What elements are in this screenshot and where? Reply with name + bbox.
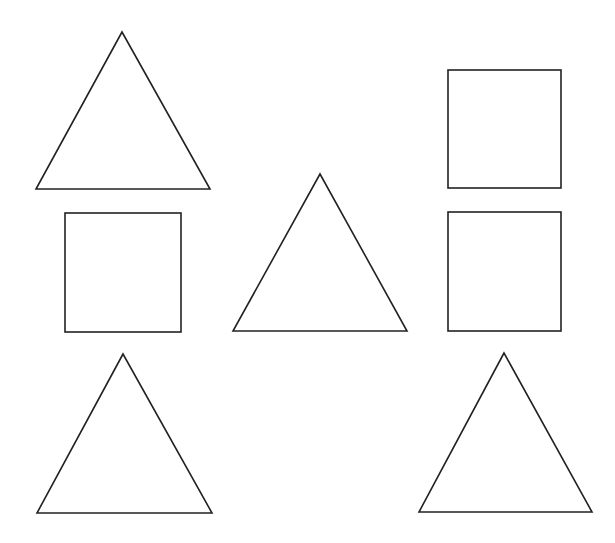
triangle-bottom-right (419, 353, 592, 512)
triangle-bottom-left (37, 354, 212, 513)
triangle-top-left (36, 32, 210, 189)
square-middle-left (65, 213, 181, 332)
shape-canvas (0, 0, 615, 543)
square-top-right (448, 70, 561, 188)
shapes-drawing (0, 0, 615, 543)
triangle-middle-center (233, 174, 407, 331)
square-middle-right (448, 212, 561, 331)
